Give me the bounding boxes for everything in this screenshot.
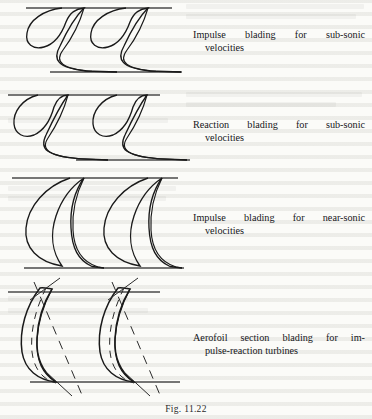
figure-caption: Fig. 11.22 [0,404,372,419]
panel-label-aerofoil: Aerofoil section blading for im- pulse-r… [193,331,365,358]
panel-label-line2: pulse-reaction turbines [193,344,365,357]
panel-label-reaction-subsonic: Reaction blading for sub-sonic velocitie… [193,118,365,145]
panel-label-line1: Impulse blading for sub-sonic [193,28,365,41]
panel-label-line2: velocities [193,131,365,144]
panel-label-line1: Impulse blading for near-sonic [193,211,365,224]
panel-label-line2: velocities [193,224,365,237]
panel-label-impulse-nearsonic: Impulse blading for near-sonic velocitie… [193,211,365,238]
panel-label-line1: Reaction blading for sub-sonic [193,118,365,131]
panel-label-impulse-subsonic: Impulse blading for sub-sonic velocities [193,28,365,55]
panel-label-line2: velocities [193,41,365,54]
panel-label-line1: Aerofoil section blading for im- [193,331,365,344]
